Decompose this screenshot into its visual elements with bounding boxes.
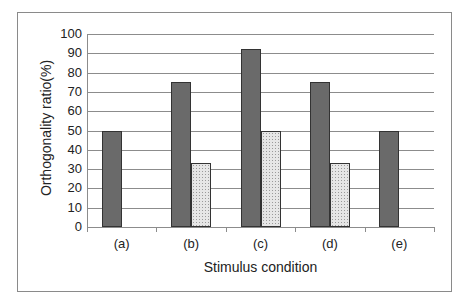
y-tick-label: 60 — [50, 104, 82, 118]
y-tick-label: 80 — [50, 66, 82, 80]
y-tick-label: 100 — [50, 27, 82, 41]
gridline — [87, 34, 434, 35]
gridline — [87, 53, 434, 54]
x-tick-mark — [434, 227, 435, 232]
bar-1 — [171, 82, 191, 227]
x-tick-mark — [156, 227, 157, 232]
y-axis-line — [87, 34, 88, 227]
x-tick-mark — [365, 227, 366, 232]
y-tick-label: 40 — [50, 143, 82, 157]
gridline — [87, 111, 434, 112]
bar-2 — [330, 163, 350, 227]
gridline — [87, 73, 434, 74]
bar-2 — [191, 163, 211, 227]
x-tick-mark — [295, 227, 296, 232]
y-tick-label: 20 — [50, 181, 82, 195]
gridline — [87, 92, 434, 93]
y-axis-title: Orthogonality ratio(%) — [38, 38, 54, 218]
x-tick-mark — [87, 227, 88, 232]
y-tick-label: 0 — [50, 220, 82, 234]
y-tick-label: 10 — [50, 201, 82, 215]
x-tick-label: (c) — [226, 236, 295, 251]
x-tick-label: (a) — [87, 236, 156, 251]
gridline — [87, 227, 434, 228]
bar-1 — [102, 131, 122, 228]
y-tick-label: 70 — [50, 85, 82, 99]
bar-2 — [261, 131, 281, 228]
x-tick-label: (d) — [295, 236, 364, 251]
x-tick-label: (b) — [156, 236, 225, 251]
y-tick-label: 90 — [50, 46, 82, 60]
y-tick-label: 30 — [50, 162, 82, 176]
plot-area — [87, 34, 434, 227]
bar-1 — [310, 82, 330, 227]
x-tick-label: (e) — [365, 236, 434, 251]
x-axis-title: Stimulus condition — [87, 259, 434, 275]
bar-1 — [241, 49, 261, 227]
y-tick-label: 50 — [50, 124, 82, 138]
x-tick-mark — [226, 227, 227, 232]
bar-1 — [379, 131, 399, 228]
